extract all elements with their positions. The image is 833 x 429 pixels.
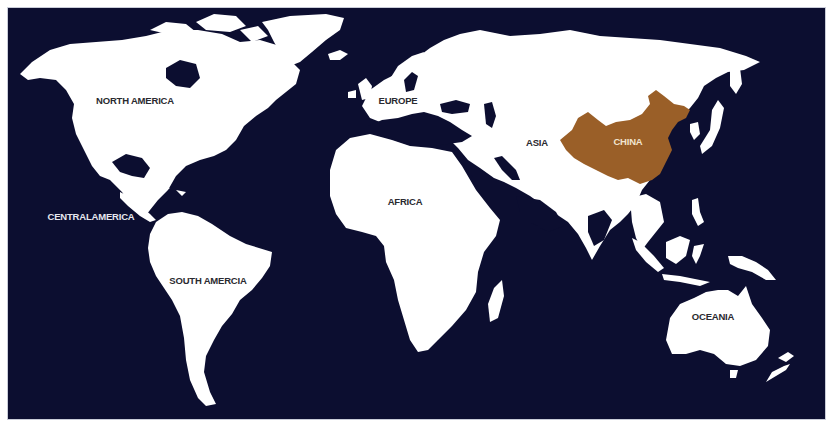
landmass-borneo [666, 236, 690, 264]
landmass-sulawesi [692, 244, 704, 264]
landmass-new-zealand [766, 352, 794, 382]
landmass-new-guinea [728, 256, 776, 280]
landmass-africa [330, 134, 500, 352]
label-asia: ASIA [526, 138, 548, 148]
label-oceania: OCEANIA [692, 312, 734, 322]
label-central-america: CENTRALAMERICA [48, 212, 135, 222]
landmass-british-isles [348, 78, 372, 100]
label-south-america: SOUTH AMERCIA [169, 276, 246, 286]
landmass-japan [700, 100, 724, 154]
world-map: NORTH AMERICA CENTRALAMERICA SOUTH AMERC… [8, 8, 825, 419]
landmass-philippines [692, 198, 704, 226]
landmass-java [662, 274, 710, 286]
label-china: CHINA [613, 137, 642, 147]
landmass-madagascar [488, 280, 504, 322]
landmass-australia [666, 286, 770, 366]
landmass-sumatra [632, 238, 664, 272]
landmass-iceland [328, 50, 348, 60]
label-africa: AFRICA [388, 197, 423, 207]
landmass-korea [690, 122, 700, 140]
landmass-south-america [148, 212, 272, 406]
label-europe: EUROPE [379, 96, 418, 106]
label-north-america: NORTH AMERICA [96, 96, 174, 106]
landmass-tasmania [730, 370, 738, 378]
